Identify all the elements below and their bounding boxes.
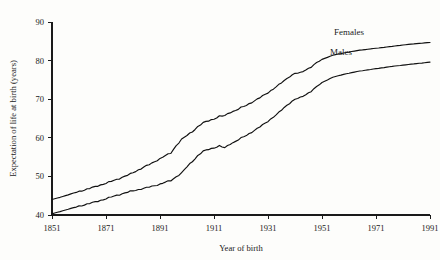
y-tick-label: 40 [36,210,45,220]
x-tick-label: 1951 [314,223,331,233]
x-tick-label: 1931 [260,223,277,233]
x-tick-label: 1991 [422,223,439,233]
y-tick-label: 60 [36,133,45,143]
x-tick-label: 1971 [368,223,385,233]
y-tick-labels: 405060708090 [36,17,45,220]
series-line-females [52,42,430,199]
life-expectancy-line-chart: 405060708090 Expectation of life at birt… [0,0,440,260]
x-tick-label: 1851 [44,223,61,233]
series-label-males: Males [330,47,352,57]
y-tick-label: 90 [36,17,45,27]
x-tick-label: 1871 [98,223,115,233]
chart-container: 405060708090 Expectation of life at birt… [0,0,440,260]
x-tick-marks [52,215,430,219]
series-line-males [52,62,430,214]
x-tick-labels: 18511871189119111931195119711991 [44,223,439,233]
y-axis-title: Expectation of life at birth (years) [8,60,18,177]
x-axis: 18511871189119111931195119711991 Year of… [44,215,439,253]
x-tick-label: 1911 [206,223,223,233]
y-tick-label: 70 [36,94,45,104]
y-tick-label: 50 [36,171,45,181]
series-label-females: Females [334,27,364,37]
series-annotations: FemalesMales [330,27,365,57]
y-tick-marks [48,22,52,215]
x-axis-title: Year of birth [219,243,263,253]
series-paths [52,42,430,213]
x-tick-label: 1891 [152,223,169,233]
y-tick-label: 80 [36,56,45,66]
y-axis: 405060708090 Expectation of life at birt… [8,17,52,220]
